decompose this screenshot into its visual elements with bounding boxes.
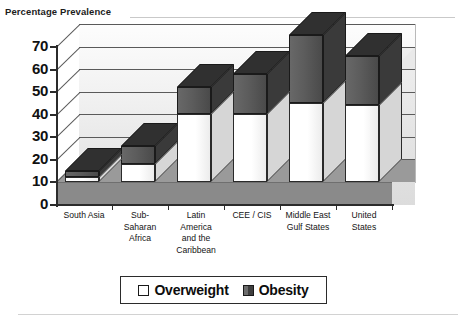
- bar-segment-obesity: [345, 56, 379, 106]
- category-label-line: America: [160, 222, 232, 234]
- bar-segment-obesity: [289, 35, 323, 103]
- y-tick-10: [50, 181, 58, 183]
- bar-segment-front: [233, 114, 267, 182]
- legend-item-overweight: Overweight: [138, 282, 228, 298]
- bar-segment-obesity: [233, 74, 267, 115]
- bar-segment-obesity: [65, 171, 99, 178]
- gridline-connector-40: [56, 92, 80, 116]
- bar-segment-front: [121, 164, 155, 182]
- legend-label-overweight: Overweight: [154, 282, 228, 298]
- gridline-connector-30: [56, 114, 80, 138]
- bar-segment-front: [121, 146, 155, 164]
- category-label-line: States: [328, 222, 400, 234]
- plot-floor-front: [56, 182, 392, 206]
- bar-segment-front: [289, 35, 323, 103]
- bar-segment-overweight: [233, 114, 267, 182]
- y-tick-label-40: 40: [2, 105, 48, 122]
- y-tick-60: [50, 69, 58, 71]
- y-tick-0: [50, 204, 58, 206]
- bar-segment-front: [177, 114, 211, 182]
- category-label-line: Caribbean: [160, 245, 232, 257]
- y-tick-label-0: 0: [2, 195, 48, 212]
- y-tick-30: [50, 136, 58, 138]
- bar-segment-overweight: [177, 114, 211, 182]
- y-tick-70: [50, 46, 58, 48]
- bar-segment-overweight: [65, 177, 99, 182]
- y-tick-label-50: 50: [2, 82, 48, 99]
- bar-segment-front: [65, 177, 99, 182]
- bar-segment-front: [177, 87, 211, 114]
- y-tick-20: [50, 159, 58, 161]
- legend-label-obesity: Obesity: [259, 282, 309, 298]
- gridline-connector-50: [56, 69, 80, 93]
- dark-square-swatch-icon: [243, 285, 254, 296]
- y-tick-label-20: 20: [2, 150, 48, 167]
- gridline-connector-60: [56, 47, 80, 71]
- bar-segment-obesity: [177, 87, 211, 114]
- legend-item-obesity: Obesity: [243, 282, 309, 298]
- y-tick-40: [50, 114, 58, 116]
- bar-segment-front: [345, 105, 379, 182]
- gridline-connector-20: [56, 137, 80, 161]
- chart-page: Percentage Prevalence 010203040506070 So…: [0, 0, 465, 326]
- gridline-70: [79, 24, 415, 25]
- category-label-line: and the: [160, 233, 232, 245]
- y-tick-label-70: 70: [2, 37, 48, 54]
- x-axis-line: [56, 204, 394, 206]
- gridline-connector-70: [56, 24, 80, 48]
- bar-segment-obesity: [121, 146, 155, 164]
- bar-segment-overweight: [121, 164, 155, 182]
- category-label-united-states: UnitedStates: [328, 210, 400, 233]
- bar-segment-overweight: [345, 105, 379, 182]
- bar-segment-overweight: [289, 103, 323, 182]
- white-square-swatch-icon: [138, 285, 149, 296]
- bar-segment-front: [345, 56, 379, 106]
- bar-segment-front: [233, 74, 267, 115]
- y-tick-50: [50, 91, 58, 93]
- y-tick-label-10: 10: [2, 172, 48, 189]
- category-label-line: United: [328, 210, 400, 222]
- footer-divider: [18, 314, 458, 315]
- bar-segment-front: [65, 171, 99, 178]
- y-tick-label-60: 60: [2, 60, 48, 77]
- y-tick-label-30: 30: [2, 127, 48, 144]
- chart-legend: Overweight Obesity: [120, 276, 327, 304]
- bar-segment-front: [289, 103, 323, 182]
